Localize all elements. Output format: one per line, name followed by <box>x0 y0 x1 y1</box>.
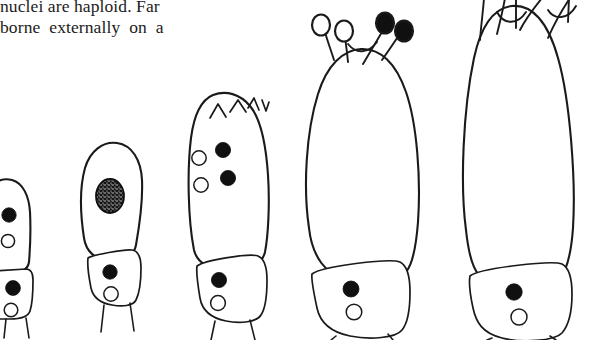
stage-3-nucleus-open-2 <box>194 178 208 192</box>
stage-5-sterigma-right-stem <box>568 0 569 22</box>
stage-1-basal-nucleus-open <box>4 303 18 317</box>
stage-4-spore-open-2 <box>335 21 353 42</box>
stage-3-group <box>189 93 269 340</box>
stage-2-basal-nucleus-open <box>104 287 118 301</box>
stage-5-group <box>463 0 576 340</box>
stage-5-body <box>463 6 574 289</box>
stage-2-basal-nucleus-filled <box>103 265 117 279</box>
stage-3-nucleus-filled-2 <box>220 170 235 185</box>
stage-4-spore-filled-2 <box>395 21 413 42</box>
stage-5-basal-nucleus-filled <box>506 284 522 300</box>
stage-1-stalk-right <box>26 318 29 338</box>
stage-1-group <box>0 179 33 338</box>
stage-4-basal-nucleus-filled <box>343 281 359 297</box>
stage-3-basal-nucleus-filled <box>211 272 226 287</box>
stage-4-body <box>306 49 419 282</box>
stage-4-group <box>306 13 419 340</box>
stage-5-basal-cell <box>470 263 572 340</box>
stage-4-basal-cell <box>312 261 410 338</box>
stage-1-body <box>0 179 30 274</box>
stage-4-spore-open-1 <box>312 15 330 36</box>
stage-1-nucleus-filled <box>2 208 16 222</box>
stage-2-fusing-nucleus <box>96 179 124 213</box>
stage-2-group <box>81 143 142 332</box>
stage-1-stalk-left <box>4 319 6 338</box>
stage-3-basal-nucleus-open <box>211 296 226 311</box>
stage-4-spore-filled-1 <box>376 13 394 34</box>
stage-3-basal-cell <box>197 255 267 322</box>
figure-page: nuclei are haploid. Far borne externally… <box>0 0 590 340</box>
stage-5-sterigma-4 <box>548 0 570 38</box>
stage-4-stalk-left <box>331 336 336 340</box>
stage-5-basal-nucleus-open <box>511 309 527 325</box>
stage-1-basal-nucleus-filled <box>6 281 21 296</box>
stage-2-stalk-left <box>101 305 104 332</box>
stage-1-nucleus-open <box>1 234 14 247</box>
stage-4-basal-nucleus-open <box>346 304 362 320</box>
stage-4-sterigma-1 <box>325 32 334 60</box>
basidium-development-figure <box>0 0 590 340</box>
stage-3-stalk-left <box>211 321 215 340</box>
stage-3-stalk-right <box>250 320 255 340</box>
stage-3-nucleus-filled-1 <box>215 142 230 157</box>
stage-3-crown-notch <box>262 100 269 111</box>
stage-3-nucleus-open-1 <box>192 151 206 165</box>
stage-2-stalk-right <box>130 303 134 331</box>
